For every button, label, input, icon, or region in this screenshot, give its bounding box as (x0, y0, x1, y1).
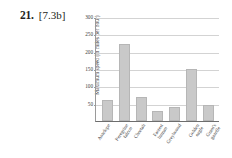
problem-reference: [7.3b] (39, 9, 66, 21)
y-tick-label: 250 (85, 33, 93, 38)
y-tick-label: 50 (88, 102, 93, 107)
bar (119, 44, 130, 121)
bar-series (96, 18, 219, 121)
problem-number: 21. (20, 9, 34, 21)
x-axis-category-labels: AntelopePeregrine falconCheetahFastest h… (95, 123, 219, 158)
figure-page: 21. [7.3b] Maximum speed (in miles per h… (0, 0, 232, 158)
bar (203, 105, 214, 121)
bar (136, 97, 147, 121)
problem-label: 21. [7.3b] (20, 9, 65, 21)
bar (186, 69, 197, 121)
y-tick-label: 100 (85, 85, 93, 90)
bar (169, 107, 180, 121)
bar-chart-figure: Maximum speed (in miles per hour) 501001… (70, 8, 222, 156)
bar (102, 100, 113, 121)
y-tick-label: 300 (85, 15, 93, 20)
y-tick-label: 150 (85, 67, 93, 72)
bar (152, 111, 163, 121)
y-axis-tick-labels: 50100150200250300 (78, 18, 93, 122)
y-tick-label: 200 (85, 50, 93, 55)
plot-area (95, 18, 219, 122)
